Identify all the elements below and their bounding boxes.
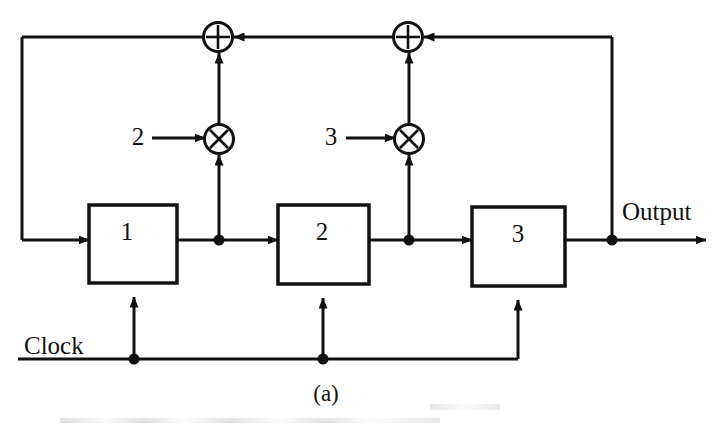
coefficient-label-2: 3 xyxy=(325,124,338,149)
register-label-1: 1 xyxy=(121,219,134,244)
junction-dot-clock2 xyxy=(318,354,329,365)
multiplier-1 xyxy=(205,125,234,154)
junction-dot-tap1 xyxy=(214,235,225,246)
junction-dot-output xyxy=(607,235,618,246)
output-label: Output xyxy=(622,199,691,224)
adder-1 xyxy=(204,23,233,52)
footer-text-smudge-secondary xyxy=(430,404,500,410)
junction-dot-clock1 xyxy=(129,354,140,365)
clock-label: Clock xyxy=(24,333,84,358)
coefficient-label-1: 2 xyxy=(132,124,145,149)
block-diagram-svg xyxy=(0,0,716,427)
figure-caption: (a) xyxy=(313,382,339,405)
adder-2 xyxy=(394,23,423,52)
footer-text-smudge xyxy=(60,418,440,423)
register-label-3: 3 xyxy=(512,221,525,246)
register-label-2: 2 xyxy=(316,219,329,244)
junction-dot-tap2 xyxy=(404,235,415,246)
figure-canvas: 1 2 3 2 3 Clock Output (a) xyxy=(0,0,716,427)
multiplier-2 xyxy=(395,125,424,154)
